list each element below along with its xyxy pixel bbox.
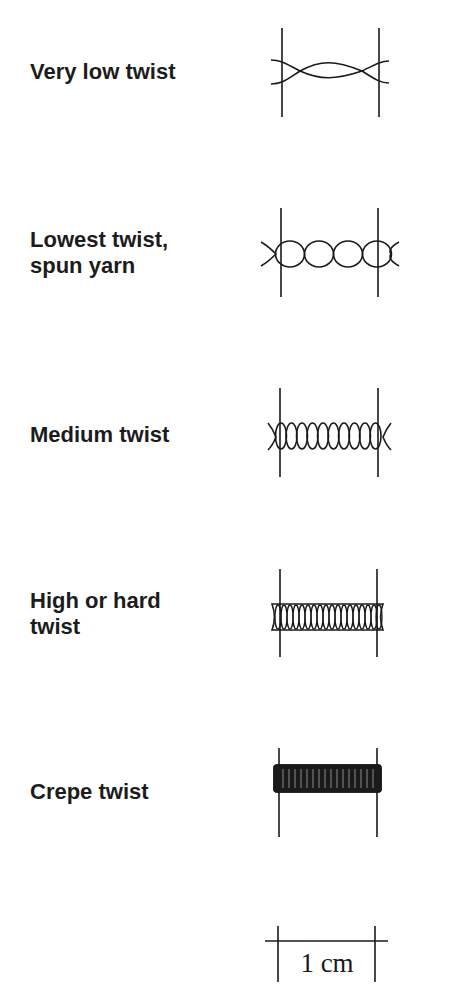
high-twist-drawing: [272, 569, 383, 657]
lowest-twist-spun-yarn-drawing: [261, 208, 399, 297]
very-low-twist-drawing: [271, 28, 389, 117]
twist-diagram-drawings: [0, 0, 456, 1000]
crepe-twist-drawing: [274, 748, 381, 837]
scale-bar: [265, 926, 388, 982]
medium-twist-drawing: [268, 388, 391, 477]
